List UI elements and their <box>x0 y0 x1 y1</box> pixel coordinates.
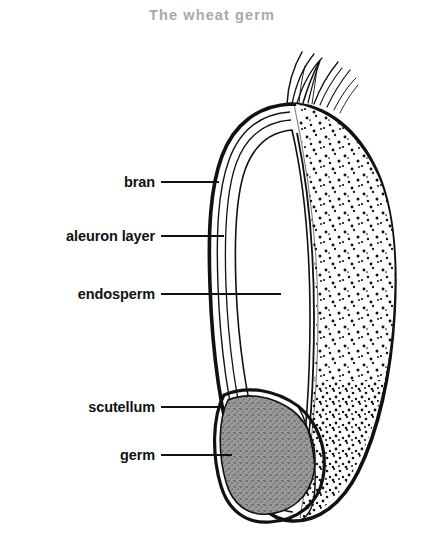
wheat-grain-diagram <box>0 0 434 535</box>
leader-lines-group <box>161 182 281 455</box>
label-bran: bran <box>124 175 155 190</box>
pericarp-bran-outline <box>209 104 395 521</box>
endosperm-lobe-divider <box>294 104 318 518</box>
germ-crease-line <box>298 406 315 521</box>
label-aleuron-layer: aleuron layer <box>66 229 155 244</box>
aleuron-layer-band <box>217 112 293 512</box>
scutellum-outline <box>215 390 325 522</box>
germ-outline <box>220 396 315 514</box>
endosperm-cavity-edge-2 <box>303 132 319 496</box>
label-germ: germ <box>120 448 155 463</box>
endosperm-inner-cavity <box>235 130 310 492</box>
wheat-germ-figure: The wheat germ <box>0 0 434 535</box>
germ-fill <box>210 385 330 530</box>
endosperm-cavity-edge <box>297 133 314 494</box>
starchy-endosperm-stipple <box>280 96 410 530</box>
label-endosperm: endosperm <box>78 287 155 302</box>
aleuron-layer-band-inner <box>225 120 295 503</box>
brush-hairs-group <box>287 52 358 113</box>
label-scutellum: scutellum <box>88 400 155 415</box>
figure-title: The wheat germ <box>0 7 434 23</box>
